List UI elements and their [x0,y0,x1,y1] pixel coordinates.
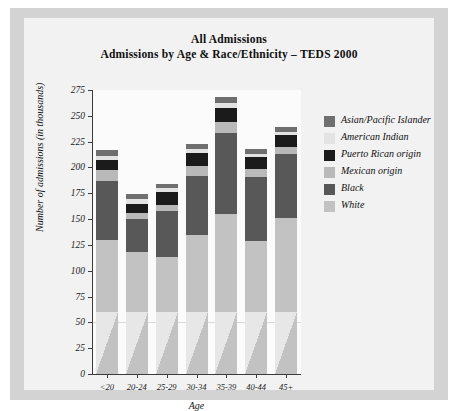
legend-swatch-icon [324,201,335,212]
bar-segment [156,192,178,204]
bar-segment [245,177,267,241]
bar-segment [245,169,267,177]
x-tick-label: 35-39 [216,382,236,392]
plot-area: 0255075100125150175200225250275 <2020-24… [92,90,301,374]
bar-segment [186,153,208,166]
bar-30-34[interactable] [186,144,208,374]
bar-segment [156,205,178,211]
legend-item[interactable]: Black [324,182,454,195]
y-tick-label: 75 [76,292,86,302]
y-tick [88,142,92,143]
x-tick-label: 25-29 [157,382,177,392]
legend-swatch-icon [324,116,335,127]
x-tick [137,374,138,378]
bar-segment [245,154,267,157]
legend-item[interactable]: Asian/Pacific Islander [324,114,454,127]
y-tick-label: 25 [76,343,86,353]
bar-segment [126,194,148,199]
bar-segment [215,214,237,374]
bar-segment [156,211,178,257]
x-tick [107,374,108,378]
legend-swatch-icon [324,167,335,178]
bar-segment [96,160,118,169]
x-tick [197,374,198,378]
legend-label: White [341,199,364,211]
y-axis-label: Number of admissions (in thousands) [34,83,45,232]
bar-segment [275,127,297,132]
bar-segment [215,133,237,214]
y-axis-line [92,90,93,374]
y-tick-label: 125 [71,240,85,250]
bar-<20[interactable] [96,150,118,374]
bar-segment [275,154,297,218]
bar-segment [126,204,148,213]
legend-swatch-icon [324,133,335,144]
y-tick [88,271,92,272]
bar-segment [215,108,237,122]
bar-segment [96,240,118,374]
legend-item[interactable]: Mexican origin [324,165,454,178]
y-tick-label: 100 [71,266,85,276]
chart-title-line1: All Admissions [24,32,434,47]
legend-item[interactable]: American Indian [324,131,454,144]
y-tick [88,90,92,91]
legend-label: Black [341,182,364,194]
bar-segment [186,166,208,175]
y-tick-label: 275 [71,85,85,95]
legend-item[interactable]: Puerto Rican origin [324,148,454,161]
x-tick [256,374,257,378]
bar-segment [245,149,267,154]
y-tick-label: 175 [71,188,85,198]
legend-label: Asian/Pacific Islander [341,114,431,126]
legend-label: Puerto Rican origin [341,148,421,160]
bar-segment [215,122,237,133]
bar-20-24[interactable] [126,194,148,374]
legend-item[interactable]: White [324,199,454,212]
bar-segment [126,252,148,374]
y-tick [88,167,92,168]
x-axis-label: Age [92,400,301,411]
bar-segment [156,188,178,192]
bar-segment [215,97,237,103]
bar-segment [245,157,267,168]
x-tick [167,374,168,378]
plot-card: All Admissions Admissions by Age & Race/… [24,18,434,390]
bar-segment [275,135,297,146]
y-tick [88,297,92,298]
x-tick-label: 30-34 [187,382,207,392]
chart-title: All Admissions Admissions by Age & Race/… [24,32,434,62]
legend-label: American Indian [341,131,409,143]
y-tick-label: 200 [71,162,85,172]
bar-segment [126,219,148,252]
x-tick-label: 45+ [279,382,293,392]
bar-segment [245,241,267,374]
bar-segment [96,150,118,156]
y-tick [88,219,92,220]
bar-segment [275,132,297,135]
bar-35-39[interactable] [215,97,237,374]
bar-segment [186,235,208,374]
y-tick-label: 250 [71,111,85,121]
bar-segment [156,257,178,374]
y-tick [88,322,92,323]
bar-segment [156,184,178,188]
x-tick [286,374,287,378]
bar-segment [186,144,208,149]
bar-segment [126,213,148,219]
x-tick-label: 40-44 [246,382,266,392]
figure-panel: All Admissions Admissions by Age & Race/… [10,8,448,400]
y-tick [88,193,92,194]
y-tick-label: 225 [71,137,85,147]
bar-segment [186,176,208,235]
bar-25-29[interactable] [156,184,178,374]
y-tick [88,116,92,117]
y-tick-label: 50 [76,317,86,327]
legend-swatch-icon [324,150,335,161]
y-tick-label: 0 [80,369,85,379]
bar-40-44[interactable] [245,149,267,374]
legend-swatch-icon [324,184,335,195]
bar-45+[interactable] [275,127,297,374]
x-tick-label: 20-24 [127,382,147,392]
legend-label: Mexican origin [341,165,402,177]
bar-segment [215,103,237,107]
